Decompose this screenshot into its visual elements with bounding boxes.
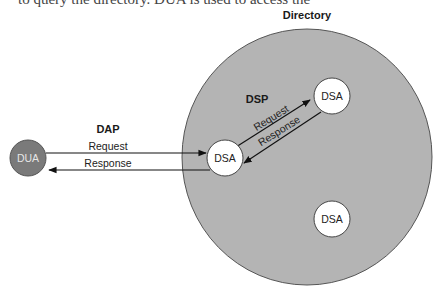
dsa-upper-node: DSA — [314, 78, 350, 114]
directory-title: Directory — [283, 9, 332, 21]
dap-protocol-label: DAP — [96, 123, 119, 135]
dua-label: DUA — [17, 152, 39, 164]
dsa-entry-label: DSA — [214, 152, 236, 164]
directory-diagram: Directory DAP Request Response DSP Reque… — [0, 0, 440, 295]
dsa-lower-node: DSA — [314, 201, 350, 237]
dsa-upper-label: DSA — [321, 90, 343, 102]
dsa-entry-node: DSA — [207, 140, 243, 176]
dsa-lower-label: DSA — [321, 213, 343, 225]
dap-response-label: Response — [84, 157, 131, 169]
dap-request-label: Request — [88, 140, 127, 152]
dsp-protocol-label: DSP — [246, 93, 269, 105]
dua-node: DUA — [10, 140, 46, 176]
